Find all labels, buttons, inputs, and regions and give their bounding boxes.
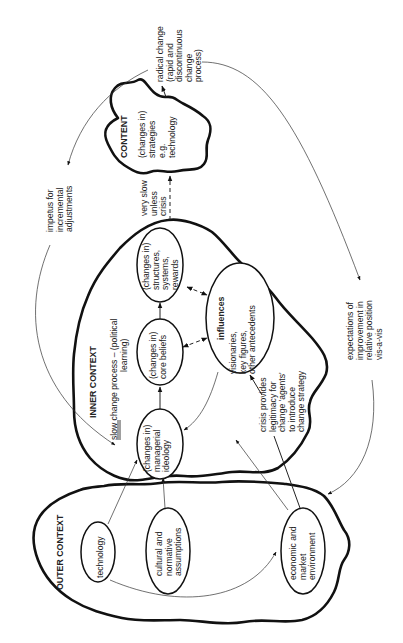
svg-text:(changes in): (changes in) bbox=[141, 243, 151, 290]
svg-text:discontinuous: discontinuous bbox=[174, 29, 184, 82]
diagram-canvas: CONTENT (changes in) strategies e.g. tec… bbox=[0, 0, 403, 643]
arrow-structures-influences bbox=[187, 287, 207, 295]
svg-text:change: change bbox=[184, 54, 194, 82]
svg-text:very slow: very slow bbox=[139, 179, 149, 216]
svg-text:learning): learning) bbox=[119, 338, 129, 372]
svg-text:to introduce: to introduce bbox=[287, 387, 297, 432]
content-title: CONTENT bbox=[119, 115, 129, 158]
svg-text:legitimacy for: legitimacy for bbox=[268, 381, 278, 432]
svg-text:environment: environment bbox=[307, 532, 317, 580]
svg-text:crisis provides: crisis provides bbox=[258, 378, 268, 432]
arrow-influences-to-ideology bbox=[184, 372, 218, 430]
svg-text:technology: technology bbox=[95, 536, 105, 578]
inner-context-title: INNER CONTEXT bbox=[88, 346, 98, 418]
svg-text:influences: influences bbox=[216, 296, 226, 340]
svg-text:adjustments: adjustments bbox=[64, 186, 74, 232]
svg-text:expectations of: expectations of bbox=[345, 302, 355, 360]
line-economic-to-crisis bbox=[274, 436, 300, 508]
crisis-label: crisis provides legitimacy for change 'a… bbox=[258, 370, 306, 432]
svg-text:(changes in): (changes in) bbox=[148, 332, 158, 379]
svg-text:rewards: rewards bbox=[170, 259, 180, 290]
svg-text:crisis: crisis bbox=[158, 196, 168, 216]
svg-text:process): process) bbox=[193, 49, 203, 82]
radical-change-label: radical change (rapid and discontinuous … bbox=[155, 26, 203, 82]
svg-text:(changes in): (changes in) bbox=[142, 425, 152, 472]
svg-text:incremental: incremental bbox=[55, 187, 65, 232]
change-process-diagram: CONTENT (changes in) strategies e.g. tec… bbox=[0, 0, 403, 643]
impetus-label: impetus for incremental adjustments bbox=[45, 186, 74, 232]
svg-text:other antecedents: other antecedents bbox=[247, 305, 257, 374]
content-line: technology bbox=[167, 116, 177, 158]
svg-text:economic and: economic and bbox=[288, 526, 298, 580]
expectations-label: expectations of improvement in relative … bbox=[345, 300, 384, 360]
svg-text:systems,: systems, bbox=[160, 256, 170, 290]
influences-label: influences bbox=[216, 296, 226, 340]
svg-text:INNER CONTEXT: INNER CONTEXT bbox=[88, 346, 98, 418]
svg-text:core beliefs: core beliefs bbox=[158, 335, 168, 379]
svg-text:key figures,: key figures, bbox=[238, 330, 248, 374]
arrow-radical-change bbox=[162, 86, 166, 97]
inner-context-process: slow change process – (political learnin… bbox=[109, 319, 129, 440]
svg-text:managerial: managerial bbox=[152, 429, 162, 472]
very-slow-label: very slow unless crisis bbox=[139, 179, 168, 216]
svg-text:relative position: relative position bbox=[364, 300, 374, 360]
svg-text:change strategy: change strategy bbox=[296, 370, 306, 432]
content-line: e.g. bbox=[157, 144, 167, 158]
svg-text:(rapid and: (rapid and bbox=[165, 43, 175, 82]
content-label-group: CONTENT (changes in) strategies e.g. tec… bbox=[119, 111, 177, 158]
svg-text:radical change: radical change bbox=[155, 26, 165, 82]
arrow-economic-to-inner bbox=[236, 440, 288, 510]
svg-text:structures,: structures, bbox=[151, 250, 161, 290]
svg-text:slow change process – (politic: slow change process – (political bbox=[109, 319, 119, 440]
svg-text:impetus for: impetus for bbox=[45, 189, 55, 232]
svg-text:normative: normative bbox=[164, 538, 174, 576]
svg-text:unless: unless bbox=[149, 191, 159, 216]
content-line: (changes in) bbox=[137, 111, 147, 158]
svg-text:visionaries,: visionaries, bbox=[228, 331, 238, 374]
core-beliefs-label: (changes in) core beliefs bbox=[148, 332, 168, 379]
arrow-technology-to-economic bbox=[110, 552, 276, 597]
technology-label: technology bbox=[95, 536, 105, 578]
svg-text:cultural and: cultural and bbox=[154, 531, 164, 576]
arrow-impetus-top bbox=[68, 70, 148, 165]
svg-text:market: market bbox=[298, 553, 308, 580]
svg-text:vis-a-vis: vis-a-vis bbox=[374, 328, 384, 360]
arrow-outer-bottom bbox=[328, 380, 374, 494]
svg-text:assumptions: assumptions bbox=[173, 528, 183, 576]
svg-text:improvement in: improvement in bbox=[355, 301, 365, 360]
svg-text:change 'agents': change 'agents' bbox=[277, 372, 287, 432]
svg-text:OUTER CONTEXT: OUTER CONTEXT bbox=[55, 514, 65, 590]
arrow-beliefs-influences bbox=[183, 338, 207, 347]
arrow-technology-to-ideology bbox=[108, 460, 137, 524]
svg-text:ideology: ideology bbox=[161, 439, 171, 472]
content-line: strategies bbox=[147, 121, 157, 158]
outer-context-title: OUTER CONTEXT bbox=[55, 514, 65, 590]
